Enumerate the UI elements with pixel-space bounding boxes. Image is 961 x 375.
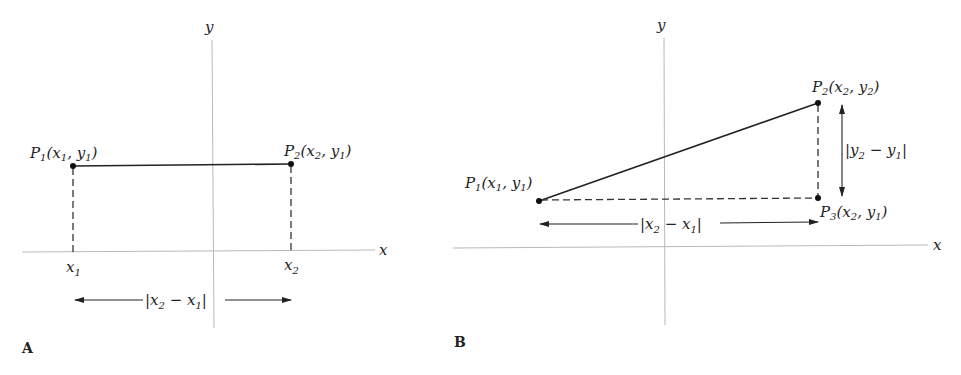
x-axis-label: x bbox=[933, 236, 942, 254]
label-p1: P1(x1, y1) bbox=[464, 174, 533, 193]
distance-formula-figure: x y P1(x1, y1) P2(x2, y1) x1 x2 |x2 − x1… bbox=[0, 0, 961, 375]
point-p3 bbox=[815, 195, 821, 201]
dashed-p1-p3 bbox=[541, 198, 818, 200]
y-axis-label: y bbox=[656, 16, 666, 34]
label-p2: P2(x2, y2) bbox=[811, 78, 880, 97]
point-p1 bbox=[70, 163, 76, 169]
point-p1 bbox=[536, 198, 542, 204]
segment-p1-p2 bbox=[539, 103, 818, 201]
point-p2 bbox=[815, 100, 821, 106]
point-p2 bbox=[288, 161, 294, 167]
x-axis-label: x bbox=[379, 241, 388, 259]
distance-label-dx: |x2 − x1| bbox=[640, 215, 702, 235]
y-axis bbox=[664, 38, 665, 325]
tick-label-x1: x1 bbox=[66, 258, 81, 278]
panel-b: x y P1(x1, y1) P2(x2, y2) P3(x2, y1) |x2… bbox=[453, 16, 942, 350]
tick-label-x2: x2 bbox=[284, 256, 299, 276]
panel-label-b: B bbox=[454, 334, 466, 350]
y-axis-label: y bbox=[204, 18, 214, 36]
label-p3: P3(x2, y1) bbox=[819, 203, 888, 222]
distance-label-dy: |y2 − y1| bbox=[845, 141, 907, 161]
x-axis bbox=[453, 245, 928, 248]
label-p1: P1(x1, y1) bbox=[29, 144, 98, 163]
panel-a: x y P1(x1, y1) P2(x2, y1) x1 x2 |x2 − x1… bbox=[21, 18, 388, 356]
y-axis bbox=[212, 40, 214, 328]
distance-label-dx: |x2 − x1| bbox=[145, 291, 207, 311]
dx-arrow-right bbox=[720, 222, 818, 223]
panel-label-a: A bbox=[21, 340, 34, 356]
segment-p1-p2 bbox=[73, 164, 291, 166]
x-axis bbox=[22, 250, 375, 252]
label-p2: P2(x2, y1) bbox=[283, 142, 352, 161]
